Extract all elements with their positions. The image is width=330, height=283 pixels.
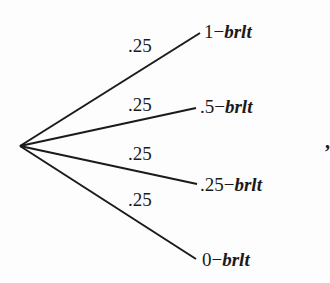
probability-tree-diagram: .25 .25 .25 .25 1−brlt .5−brlt .25−brlt … (0, 0, 330, 283)
outcome-label-2: .5−brlt (200, 97, 252, 116)
outcome-dash: − (214, 96, 225, 117)
outcome-variable: brlt (225, 96, 252, 117)
outcome-value: .5 (200, 96, 214, 117)
outcome-label-3: .25−brlt (200, 175, 262, 194)
outcome-variable: brlt (234, 174, 261, 195)
branch-line-2 (20, 108, 196, 146)
outcome-variable: brlt (224, 21, 251, 42)
outcome-value: .25 (200, 174, 224, 195)
outcome-dash: − (214, 21, 225, 42)
branch-probability-3: .25 (128, 144, 152, 163)
branch-line-3 (20, 146, 197, 184)
outcome-dash: − (224, 174, 235, 195)
branch-line-1 (20, 33, 200, 146)
outcome-label-4: 0−brlt (202, 250, 250, 269)
outcome-label-1: 1−brlt (204, 22, 252, 41)
trailing-comma: , (325, 130, 330, 153)
branch-probability-4: .25 (128, 190, 152, 209)
branch-probability-1: .25 (128, 36, 152, 55)
tree-branches (0, 0, 330, 283)
branch-probability-2: .25 (128, 95, 152, 114)
outcome-variable: brlt (222, 249, 249, 270)
branch-line-4 (20, 146, 196, 259)
outcome-value: 0 (202, 249, 212, 270)
outcome-value: 1 (204, 21, 214, 42)
outcome-dash: − (212, 249, 223, 270)
